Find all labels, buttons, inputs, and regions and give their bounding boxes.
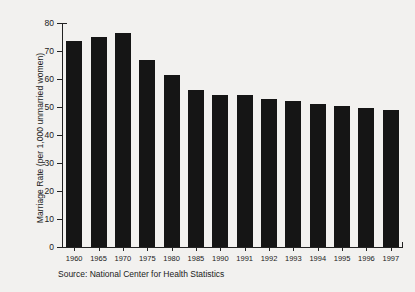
y-tick-label-60: 60 xyxy=(28,75,54,83)
x-tick-1990 xyxy=(220,247,221,251)
x-tick-label-1980: 1980 xyxy=(159,254,183,263)
y-tick-70 xyxy=(57,51,62,52)
y-tick-label-0: 0 xyxy=(28,243,54,251)
x-tick-label-1985: 1985 xyxy=(184,254,208,263)
y-tick-60 xyxy=(57,79,62,80)
x-tick-1985 xyxy=(196,247,197,251)
bar-1996 xyxy=(358,108,374,247)
bar-1985 xyxy=(188,90,204,247)
x-tick-label-1996: 1996 xyxy=(354,254,378,263)
x-tick-label-1990: 1990 xyxy=(208,254,232,263)
x-tick-1997 xyxy=(391,247,392,251)
bar-1993 xyxy=(285,101,301,247)
bar-1995 xyxy=(334,106,350,247)
x-tick-1965 xyxy=(99,247,100,251)
x-tick-1970 xyxy=(123,247,124,251)
y-tick-50 xyxy=(57,107,62,108)
x-tick-1960 xyxy=(74,247,75,251)
bar-1965 xyxy=(91,37,107,247)
x-tick-label-1992: 1992 xyxy=(257,254,281,263)
y-tick-80 xyxy=(57,23,62,24)
bar-1970 xyxy=(115,33,131,247)
x-tick-label-1997: 1997 xyxy=(379,254,403,263)
x-tick-1980 xyxy=(172,247,173,251)
x-axis-line xyxy=(62,247,403,248)
axis-corner-cap-top-left xyxy=(62,23,67,24)
y-tick-10 xyxy=(57,219,62,220)
x-tick-1995 xyxy=(342,247,343,251)
x-tick-1975 xyxy=(147,247,148,251)
bar-1994 xyxy=(310,104,326,247)
x-tick-label-1995: 1995 xyxy=(330,254,354,263)
y-tick-label-50: 50 xyxy=(28,103,54,111)
bar-1975 xyxy=(139,60,155,247)
x-tick-label-1965: 1965 xyxy=(86,254,110,263)
y-tick-label-20: 20 xyxy=(28,187,54,195)
x-tick-label-1960: 1960 xyxy=(62,254,86,263)
bar-1991 xyxy=(237,95,253,247)
x-tick-label-1970: 1970 xyxy=(111,254,135,263)
y-tick-label-80: 80 xyxy=(28,19,54,27)
x-tick-1991 xyxy=(245,247,246,251)
x-tick-label-1975: 1975 xyxy=(135,254,159,263)
x-tick-label-1993: 1993 xyxy=(281,254,305,263)
bar-1980 xyxy=(164,75,180,247)
x-tick-1992 xyxy=(269,247,270,251)
x-tick-1996 xyxy=(366,247,367,251)
y-tick-30 xyxy=(57,163,62,164)
y-tick-20 xyxy=(57,191,62,192)
bar-1960 xyxy=(66,41,82,247)
y-tick-0 xyxy=(57,247,62,248)
y-tick-label-40: 40 xyxy=(28,131,54,139)
bar-1997 xyxy=(383,110,399,247)
bar-1990 xyxy=(212,95,228,247)
x-tick-label-1991: 1991 xyxy=(233,254,257,263)
y-axis-line xyxy=(62,23,63,248)
x-tick-1994 xyxy=(318,247,319,251)
y-tick-40 xyxy=(57,135,62,136)
y-tick-label-30: 30 xyxy=(28,159,54,167)
y-tick-label-70: 70 xyxy=(28,47,54,55)
x-tick-label-1994: 1994 xyxy=(306,254,330,263)
axis-corner-cap-bottom-right xyxy=(402,242,403,248)
chart-figure: Marriage Rate (per 1,000 unmarried women… xyxy=(0,0,415,292)
source-note: Source: National Center for Health Stati… xyxy=(58,269,224,279)
bar-1992 xyxy=(261,99,277,247)
x-tick-1993 xyxy=(293,247,294,251)
y-tick-label-10: 10 xyxy=(28,215,54,223)
